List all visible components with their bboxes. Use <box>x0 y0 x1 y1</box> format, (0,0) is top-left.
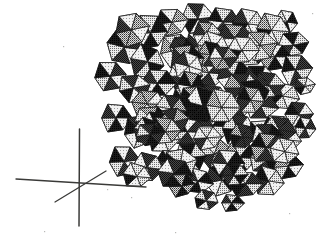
polyhedral-figure-svg <box>0 0 328 243</box>
scan-speckle-dot <box>131 197 132 198</box>
figure-canvas <box>0 0 328 243</box>
scan-speckle-dot <box>289 213 290 214</box>
scan-speckle-dot <box>44 231 45 232</box>
scan-speckle-dot <box>175 232 176 233</box>
scan-speckle-dot <box>107 189 108 190</box>
vertical-axis <box>79 129 80 226</box>
scan-speckle-dot <box>312 13 313 14</box>
scan-speckle-dot <box>63 46 64 47</box>
